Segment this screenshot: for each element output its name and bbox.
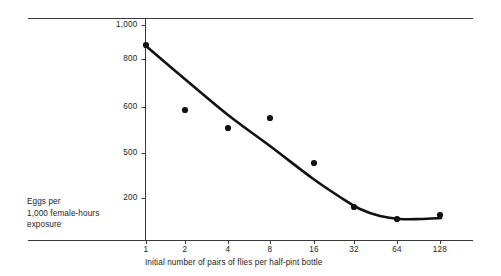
- x-axis-tick-label: 8: [255, 246, 285, 254]
- data-point: [311, 160, 317, 166]
- data-point-group: [143, 42, 443, 222]
- y-axis-ticks: [142, 26, 146, 199]
- y-axis-caption: Eggs per 1,000 female-hours exposure: [27, 196, 99, 231]
- data-point: [182, 107, 188, 113]
- fitted-curve: [146, 46, 441, 219]
- y-axis-tick-label: 500: [104, 149, 138, 157]
- x-axis-tick-label: 16: [299, 246, 329, 254]
- data-point: [437, 212, 443, 218]
- x-axis-tick-label: 1: [131, 246, 161, 254]
- x-axis-tick-label: 128: [425, 246, 455, 254]
- data-point: [351, 204, 357, 210]
- data-point: [143, 42, 149, 48]
- chart-figure: 2005006008001,000 1248163264128 Eggs per…: [0, 0, 501, 276]
- data-point: [267, 115, 273, 121]
- data-point: [394, 216, 400, 222]
- plot-area: [0, 0, 501, 276]
- x-axis-ticks: [147, 240, 441, 244]
- x-axis-tick-label: 4: [213, 246, 243, 254]
- y-axis-tick-label: 600: [104, 103, 138, 111]
- y-axis-tick-label: 200: [104, 194, 138, 202]
- x-axis-caption: Initial number of pairs of flies per hal…: [145, 259, 322, 267]
- y-axis-tick-label: 1,000: [104, 21, 138, 29]
- y-axis-tick-label: 800: [104, 55, 138, 63]
- x-axis-tick-label: 64: [382, 246, 412, 254]
- x-axis-tick-label: 2: [170, 246, 200, 254]
- data-point: [225, 125, 231, 131]
- x-axis-tick-label: 32: [339, 246, 369, 254]
